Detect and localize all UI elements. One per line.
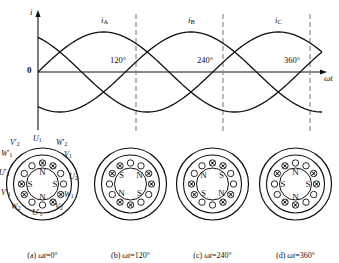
conductor-out-of-page <box>127 160 133 166</box>
curve-label-ia-sub: A <box>104 18 109 25</box>
tick-label-360: 360° <box>284 56 300 65</box>
conductor-into-page <box>117 199 123 205</box>
terminal-subscript: 1 <box>9 152 12 158</box>
stator-svg-a: NSSN <box>0 134 85 239</box>
pole-label-s: S <box>219 170 224 180</box>
stator-diagram-d: NSSN (d) ωt=360° <box>253 132 338 263</box>
terminal-label-u1: U1 <box>33 134 42 143</box>
stator-caption-c-var: ωt <box>204 251 212 260</box>
pole-label-n: N <box>292 167 299 177</box>
conductor-out-of-page <box>199 163 205 169</box>
terminal-label-v1: V1 <box>64 150 72 159</box>
pole-label-s: S <box>119 170 124 180</box>
conductor-out-of-page <box>303 199 309 205</box>
stator-caption-a-var: ωt <box>38 251 46 260</box>
conductor-into-page <box>50 163 56 169</box>
terminal-label-w1-prime: W′1 <box>1 149 12 158</box>
conductor-out-of-page <box>109 191 115 197</box>
stator-svg-c: NSSN <box>170 134 255 239</box>
terminal-base: W <box>56 138 63 147</box>
conductor-out-of-page <box>303 163 309 169</box>
conductor-into-page <box>282 199 288 205</box>
terminal-label-v2-prime: V′2 <box>10 138 20 147</box>
stator-caption-b-value: =120° <box>130 251 150 260</box>
conductor-out-of-page <box>57 170 63 176</box>
pole-label-n: N <box>200 170 207 180</box>
terminal-subscript: 1 <box>69 153 72 159</box>
terminal-subscript: 2 <box>17 141 20 147</box>
conductor-out-of-page <box>60 181 66 187</box>
stator-caption-a-value: =0° <box>46 251 58 260</box>
stator-diagram-b: SNNS (b) ωt=120° <box>88 132 173 263</box>
conductor-into-page <box>145 170 151 176</box>
stator-caption-a: (a) ωt=0° <box>0 251 85 260</box>
conductor-into-page <box>57 191 63 197</box>
conductor-into-page <box>220 163 226 169</box>
stator-caption-d: (d) ωt=360° <box>253 251 338 260</box>
stator-caption-d-index: (d) <box>276 251 285 260</box>
conductor-into-page <box>148 181 154 187</box>
pole-label-n: N <box>39 192 46 202</box>
terminal-base: W <box>64 190 71 199</box>
conductor-into-page <box>39 160 45 166</box>
conductor-out-of-page <box>199 199 205 205</box>
pole-label-n: N <box>292 192 299 202</box>
pole-label-s: S <box>52 179 57 189</box>
conductor-out-of-page <box>209 202 215 208</box>
stator-frame-outer <box>95 148 167 220</box>
conductor-into-page <box>292 202 298 208</box>
conductor-out-of-page <box>29 163 35 169</box>
pole-label-n: N <box>39 167 46 177</box>
stator-diagram-c: NSSN (c) ωt=240° <box>170 132 255 263</box>
terminal-base: W <box>11 202 18 211</box>
terminal-subscript: 2 <box>18 205 21 211</box>
conductor-out-of-page <box>292 160 298 166</box>
terminal-label-v2: V2 <box>55 202 63 211</box>
terminal-subscript: 2 <box>64 141 67 147</box>
terminal-subscript: 2 <box>75 175 78 181</box>
terminal-base: W <box>1 149 8 158</box>
terminal-subscript: 1 <box>8 191 11 197</box>
tick-label-120: 120° <box>110 56 126 65</box>
curve-label-ia: iA <box>101 16 108 26</box>
conductor-into-page <box>313 181 319 187</box>
x-axis-label: ωt <box>324 74 333 83</box>
pole-label-s: S <box>27 179 32 189</box>
conductor-into-page <box>188 181 194 187</box>
conductor-out-of-page <box>138 163 144 169</box>
conductor-out-of-page <box>21 170 27 176</box>
terminal-label-u2-prime: U′2 <box>0 168 9 177</box>
terminal-subscript: 2 <box>60 205 63 211</box>
conductor-into-page <box>310 170 316 176</box>
stator-frame-outer <box>260 148 332 220</box>
pole-label-n: N <box>136 170 143 180</box>
terminal-label-v1-prime: V′1 <box>1 188 11 197</box>
stator-caption-c-value: =240° <box>212 251 232 260</box>
terminal-subscript: 2 <box>7 171 10 177</box>
stator-caption-b: (b) ωt=120° <box>88 251 173 260</box>
conductor-out-of-page <box>191 170 197 176</box>
conductor-out-of-page <box>138 199 144 205</box>
terminal-label-w2-prime: W′2 <box>56 138 67 147</box>
conductor-out-of-page <box>310 191 316 197</box>
pole-label-s: S <box>305 179 310 189</box>
conductor-into-page <box>282 163 288 169</box>
conductor-into-page <box>220 199 226 205</box>
tick-label-240: 240° <box>197 56 213 65</box>
stator-diagram-a: NSSN (a) ωt=0° V′2U1W′2W′1V1U′2U2V′1W1W2… <box>0 132 85 263</box>
terminal-subscript: 1 <box>71 193 74 199</box>
conductor-into-page <box>191 191 197 197</box>
terminal-label-u2: U2 <box>69 172 78 181</box>
conductor-into-page <box>21 191 27 197</box>
stator-caption-b-index: (b) <box>111 251 120 260</box>
conductor-out-of-page <box>106 181 112 187</box>
conductor-into-page <box>227 191 233 197</box>
stator-svg-d: NSSN <box>253 134 338 239</box>
terminal-subscript: 1 <box>40 211 43 217</box>
origin-label: 0 <box>27 66 32 75</box>
conductor-into-page <box>109 170 115 176</box>
pole-label-s: S <box>137 188 142 198</box>
stator-frame-outer <box>177 148 249 220</box>
stator-svg-b: SNNS <box>88 134 173 239</box>
conductor-out-of-page <box>230 181 236 187</box>
